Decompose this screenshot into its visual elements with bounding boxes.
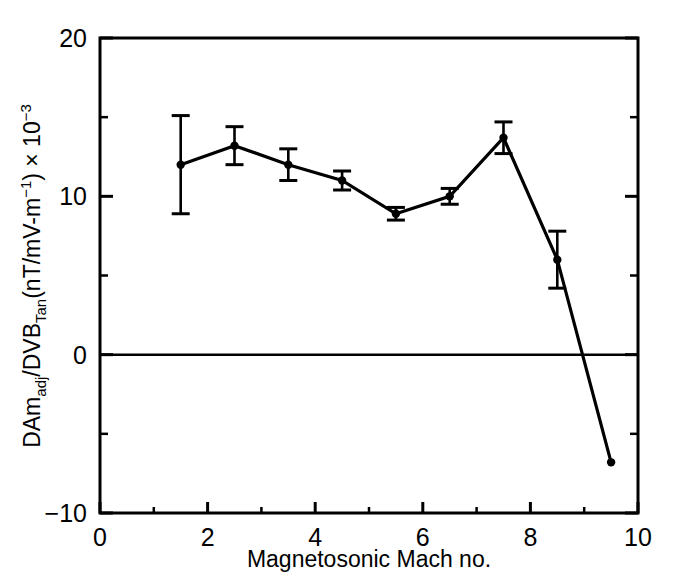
y-axis-title-superscript: −3 <box>17 104 34 121</box>
y-axis-title-subscript: Tan <box>32 299 49 323</box>
data-point-marker <box>338 176 346 184</box>
data-point-marker <box>499 134 507 142</box>
y-tick-label: 10 <box>59 182 87 210</box>
data-point-marker <box>446 192 454 200</box>
data-series-error-bars <box>172 116 567 289</box>
y-tick-label: 20 <box>59 24 87 52</box>
x-tick-label: 0 <box>93 523 107 551</box>
data-point-marker <box>230 141 238 149</box>
y-axis-title-run: (nT/mV-m <box>19 198 45 299</box>
data-series-line <box>181 138 611 463</box>
data-point-marker <box>177 160 185 168</box>
data-point-marker <box>284 160 292 168</box>
x-tick-label: 8 <box>523 523 537 551</box>
y-tick-label: −10 <box>45 499 87 527</box>
data-point-marker <box>392 210 400 218</box>
y-axis-title-run: /DVB <box>19 323 45 377</box>
x-axis-title: Magnetosonic Mach no. <box>247 546 491 572</box>
data-point-marker <box>607 458 615 466</box>
chart-figure: 0246810 −1001020 Magnetosonic Mach no. D… <box>0 0 680 588</box>
y-axis-title-superscript: −1 <box>17 181 34 198</box>
data-point-marker <box>553 255 561 263</box>
y-axis-title-subscript: adj <box>32 377 49 397</box>
svg-text:DAmadj/DVBTan(nT/mV-m−1) × 10−: DAmadj/DVBTan(nT/mV-m−1) × 10−3 <box>17 104 49 448</box>
y-axis-title-run: ) × 10 <box>19 121 45 180</box>
x-tick-label: 2 <box>201 523 215 551</box>
chart-canvas: 0246810 −1001020 Magnetosonic Mach no. D… <box>0 0 680 588</box>
y-axis-tick-labels: −1001020 <box>45 24 87 527</box>
y-tick-label: 0 <box>73 341 87 369</box>
x-tick-label: 10 <box>624 523 652 551</box>
data-series-markers <box>177 134 616 467</box>
y-axis-title: DAmadj/DVBTan(nT/mV-m−1) × 10−3 <box>17 104 49 448</box>
y-axis-title-run: DAm <box>19 397 45 448</box>
series-polyline <box>181 138 611 463</box>
